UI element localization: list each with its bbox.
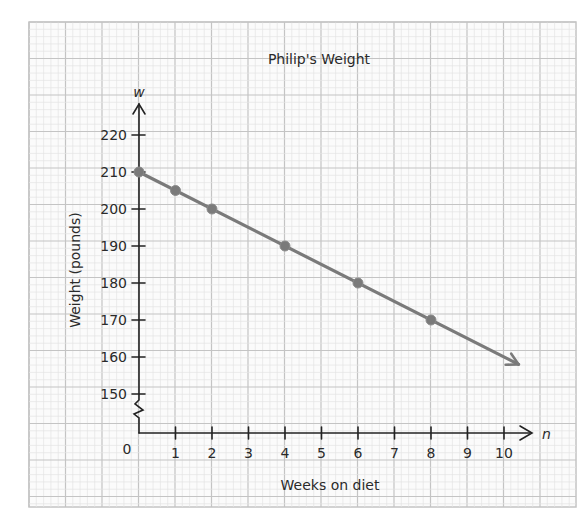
data-point: [353, 278, 363, 288]
y-tick-label: 150: [100, 386, 127, 402]
y-axis-variable: w: [133, 84, 145, 100]
x-tick-label: 10: [495, 445, 513, 461]
line-chart: 12345678910150160170180190200210220 Phil…: [0, 0, 584, 528]
x-tick-label: 9: [463, 445, 472, 461]
x-axis-variable: n: [542, 426, 551, 442]
x-tick-label: 3: [244, 445, 253, 461]
chart-title: Philip's Weight: [268, 51, 371, 67]
y-axis-label: Weight (pounds): [67, 212, 83, 328]
data-point: [426, 315, 436, 325]
data-point: [171, 186, 181, 196]
graph-paper-grid: [29, 22, 576, 507]
x-tick-label: 4: [281, 445, 290, 461]
x-tick-label: 7: [390, 445, 399, 461]
y-tick-label: 170: [100, 312, 127, 328]
x-axis-label: Weeks on diet: [281, 477, 380, 493]
data-point: [280, 241, 290, 251]
y-tick-label: 200: [100, 201, 127, 217]
y-tick-label: 180: [100, 275, 127, 291]
y-tick-label: 220: [100, 127, 127, 143]
y-tick-label: 190: [100, 238, 127, 254]
origin-label: 0: [123, 441, 132, 457]
x-tick-label: 2: [208, 445, 217, 461]
x-tick-label: 6: [354, 445, 363, 461]
x-tick-label: 5: [317, 445, 326, 461]
x-tick-label: 8: [427, 445, 436, 461]
y-tick-label: 210: [100, 164, 127, 180]
data-point: [207, 204, 217, 214]
data-point: [134, 167, 144, 177]
x-tick-label: 1: [171, 445, 180, 461]
y-tick-label: 160: [100, 349, 127, 365]
